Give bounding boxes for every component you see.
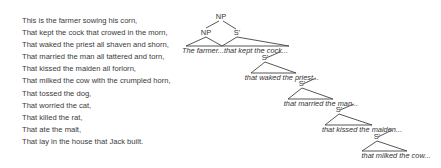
- tree-leaf: that milked the cow...: [361, 151, 430, 160]
- syntax-tree: NP NP The farmer... S' that kept the coc…: [0, 0, 441, 168]
- tree-node-sbar: S': [234, 28, 241, 37]
- tree-leaf: The farmer...: [182, 46, 224, 55]
- tree-leaf: that kissed the maiden...: [322, 125, 402, 134]
- tree-leaf: that kept the cock...: [224, 46, 288, 55]
- tree-leaf: that waked the priest...: [245, 73, 319, 82]
- tree-node-root-np: NP: [216, 12, 226, 21]
- tree-node-np: NP: [201, 28, 211, 37]
